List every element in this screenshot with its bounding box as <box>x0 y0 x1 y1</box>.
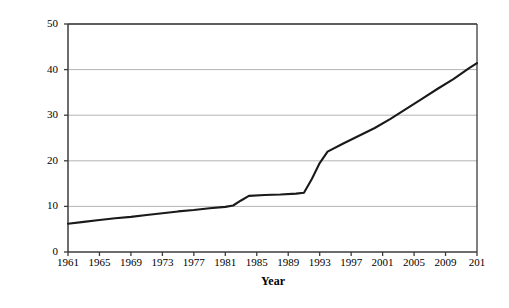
gridlines <box>68 24 477 206</box>
woodfuel-production-line-chart: Woodfuel production (millions of tonnes)… <box>0 0 509 308</box>
plot-canvas <box>0 0 509 308</box>
data-line-woodfuel-production <box>68 63 477 224</box>
